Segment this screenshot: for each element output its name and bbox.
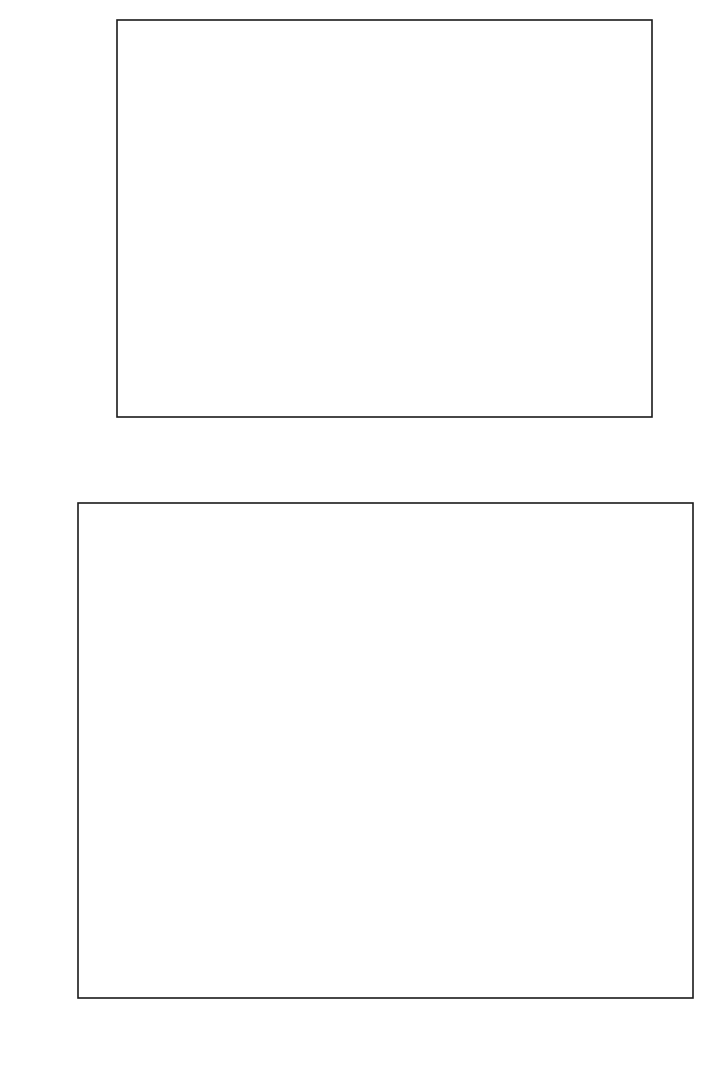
- top-chart: [58, 20, 652, 417]
- bottom-plot-frame: [78, 503, 693, 998]
- bottom-chart: [0, 0, 693, 998]
- figure-canvas: [0, 0, 706, 1065]
- top-plot-frame: [117, 20, 652, 417]
